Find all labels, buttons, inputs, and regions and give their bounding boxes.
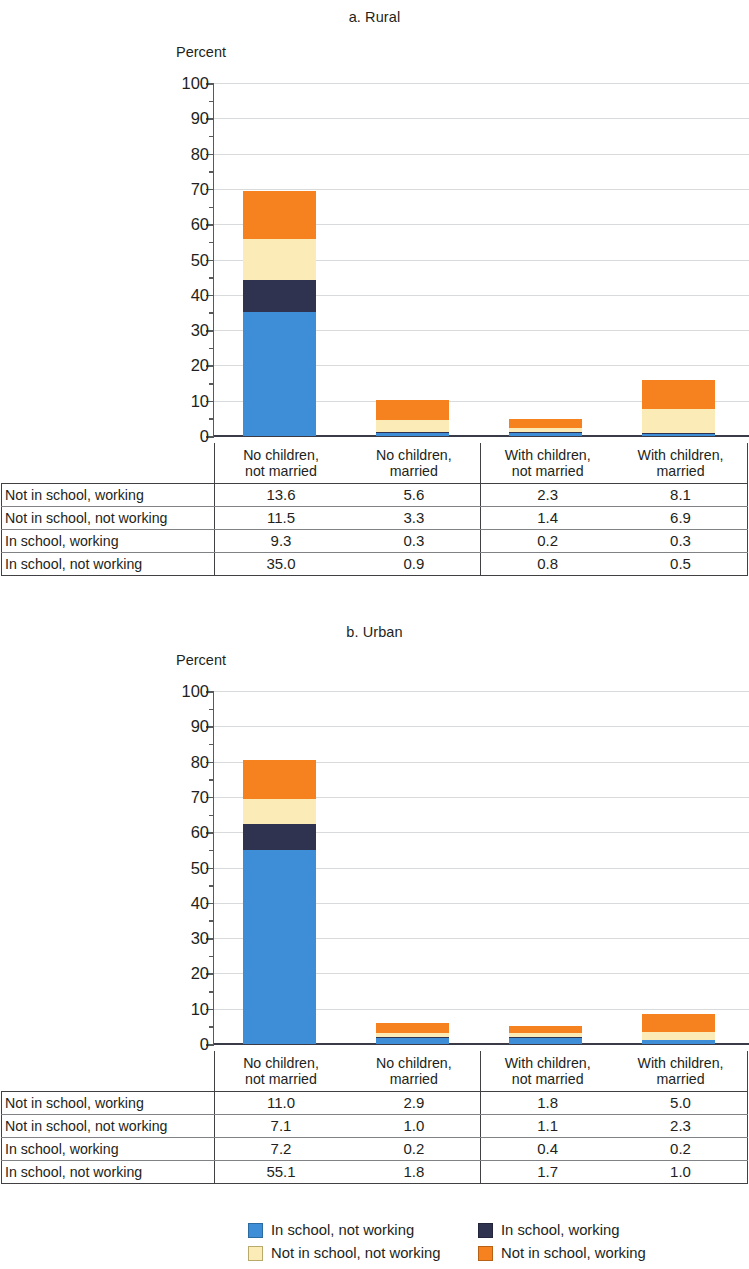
y-axis-tick-minor <box>209 136 214 138</box>
y-axis-label: 10 <box>175 393 209 410</box>
table-cell-value: 0.5 <box>614 552 747 575</box>
table-row-label: In school, working <box>2 529 215 552</box>
y-axis-tick-minor <box>209 885 214 887</box>
table-cell-value: 0.2 <box>481 529 614 552</box>
column-header-line1: No children, <box>215 448 348 464</box>
gridline <box>214 189 749 190</box>
stacked-bar <box>509 419 582 436</box>
stacked-bar <box>642 380 715 436</box>
legend-item[interactable]: In school, not working <box>248 1222 478 1238</box>
legend-item[interactable]: In school, working <box>478 1222 619 1238</box>
table-row-label: Not in school, working <box>2 1091 215 1114</box>
column-header-line2: married <box>614 464 747 480</box>
y-axis-label: 40 <box>175 287 209 304</box>
y-axis-label: 20 <box>175 965 209 982</box>
stacked-bar <box>376 400 449 436</box>
column-header-line1: No children, <box>347 1056 480 1072</box>
table-column-header: No children,married <box>347 443 480 483</box>
column-header-line2: married <box>347 464 480 480</box>
table-row: Not in school, not working11.53.31.46.9 <box>2 506 748 529</box>
table-row-label: In school, working <box>2 1137 215 1160</box>
y-axis-labels-urban: 1009080706050403020100 <box>175 691 209 1044</box>
table-cell-value: 11.0 <box>214 1091 347 1114</box>
column-header-line2: not married <box>481 1072 614 1088</box>
y-axis-tick-minor <box>209 348 214 350</box>
bar-segment <box>376 400 449 420</box>
bar-segment <box>642 409 715 433</box>
table-cell-value: 1.4 <box>481 506 614 529</box>
legend-swatch-icon <box>478 1246 493 1261</box>
y-axis-label: 10 <box>175 1001 209 1018</box>
legend-swatch-icon <box>248 1246 263 1261</box>
column-header-line2: married <box>614 1072 747 1088</box>
table-cell-value: 0.2 <box>614 1137 747 1160</box>
table-cell-value: 2.3 <box>481 483 614 506</box>
bar-segment <box>376 433 449 436</box>
table-cell-value: 35.0 <box>214 552 347 575</box>
table-cell-value: 1.1 <box>481 1114 614 1137</box>
legend-swatch-icon <box>248 1223 263 1238</box>
y-axis-tick-minor <box>209 991 214 993</box>
stacked-bar <box>642 1014 715 1044</box>
table-column-header: With children,married <box>614 443 747 483</box>
table-row: Not in school, working11.02.91.85.0 <box>2 1091 748 1114</box>
legend-swatch-icon <box>478 1223 493 1238</box>
bar-segment <box>243 799 316 824</box>
axis-unit-label-rural: Percent <box>176 44 226 60</box>
y-axis-label: 40 <box>175 895 209 912</box>
y-axis-tick-minor <box>209 815 214 817</box>
stacked-bar <box>243 760 316 1044</box>
y-axis-label: 30 <box>175 930 209 947</box>
data-table-urban: No children,not marriedNo children,marri… <box>1 1051 748 1184</box>
bar-segment <box>243 312 316 436</box>
y-axis-label: 30 <box>175 322 209 339</box>
table-cell-value: 2.9 <box>347 1091 480 1114</box>
legend-label: In school, not working <box>271 1222 414 1238</box>
y-axis-tick-minor <box>209 101 214 103</box>
bar-segment <box>376 1038 449 1044</box>
table-cell-value: 2.3 <box>614 1114 747 1137</box>
gridline <box>214 83 749 84</box>
table-cell-value: 3.3 <box>347 506 480 529</box>
table-column-header: With children,not married <box>481 443 614 483</box>
table-cell-value: 1.0 <box>614 1160 747 1183</box>
table-row-label: In school, not working <box>2 1160 215 1183</box>
bar-segment <box>642 1032 715 1040</box>
table-row: Not in school, working13.65.62.38.1 <box>2 483 748 506</box>
chart-legend: In school, not workingIn school, working… <box>248 1222 728 1268</box>
chart-title-urban: b. Urban <box>0 624 749 640</box>
stacked-bar <box>243 191 316 436</box>
table-cell-value: 5.6 <box>347 483 480 506</box>
legend-item[interactable]: Not in school, working <box>478 1245 646 1261</box>
table-cell-value: 11.5 <box>214 506 347 529</box>
bar-segment <box>243 760 316 799</box>
bar-segment <box>243 280 316 313</box>
legend-label: Not in school, not working <box>271 1245 440 1261</box>
column-header-line2: not married <box>481 464 614 480</box>
table-header-row: No children,not marriedNo children,marri… <box>2 443 748 483</box>
table-column-header: With children,not married <box>481 1051 614 1091</box>
table-corner-cell <box>2 443 215 483</box>
y-axis-tick-minor <box>209 709 214 711</box>
y-axis-label: 80 <box>175 754 209 771</box>
table-row: In school, not working35.00.90.80.5 <box>2 552 748 575</box>
y-axis-label: 100 <box>175 75 209 92</box>
table-column-header: No children,married <box>347 1051 480 1091</box>
table-cell-value: 1.0 <box>347 1114 480 1137</box>
gridline <box>214 726 749 727</box>
plot-area-urban <box>213 691 748 1044</box>
table-cell-value: 0.8 <box>481 552 614 575</box>
legend-item[interactable]: Not in school, not working <box>248 1245 478 1261</box>
stacked-bar <box>509 1026 582 1044</box>
table-cell-value: 7.1 <box>214 1114 347 1137</box>
y-axis-tick-minor <box>209 744 214 746</box>
table-cell-value: 7.2 <box>214 1137 347 1160</box>
table-row: In school, working7.20.20.40.2 <box>2 1137 748 1160</box>
y-axis-label: 100 <box>175 683 209 700</box>
gridline <box>214 691 749 692</box>
column-header-line2: not married <box>215 1072 348 1088</box>
table-cell-value: 1.8 <box>481 1091 614 1114</box>
data-table-rural: No children,not marriedNo children,marri… <box>1 443 748 576</box>
bar-segment <box>642 434 715 436</box>
table-cell-value: 13.6 <box>214 483 347 506</box>
